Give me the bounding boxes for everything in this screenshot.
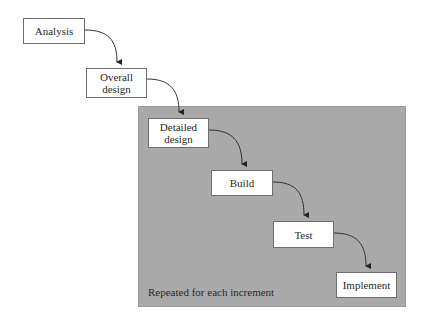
node-test: Test [273, 221, 334, 248]
node-label: Detailed design [160, 121, 197, 145]
node-label: Analysis [35, 25, 74, 37]
node-overall-design: Overall design [86, 68, 147, 98]
node-build: Build [211, 170, 273, 196]
node-label: Build [230, 177, 254, 189]
node-label: Implement [343, 279, 391, 291]
node-label: Overall design [100, 71, 133, 95]
node-detailed-design: Detailed design [148, 118, 209, 148]
node-label: Test [294, 229, 312, 241]
increment-region-label: Repeated for each increment [148, 286, 274, 298]
arrow-analysis-to-overall-design [85, 30, 117, 62]
node-analysis: Analysis [23, 18, 85, 44]
node-implement: Implement [336, 272, 397, 298]
